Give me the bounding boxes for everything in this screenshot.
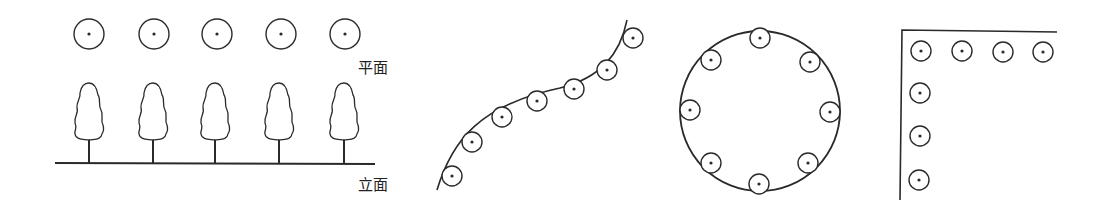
plan-view-label: 平面 <box>358 56 388 77</box>
tree-plan-symbol-icon <box>623 28 643 48</box>
tree-plan-symbol-icon <box>492 107 512 127</box>
tree-plan-symbol-icon <box>462 132 482 152</box>
tree-plan-symbol-icon <box>798 153 818 173</box>
elevation-view-label: 立面 <box>358 173 388 194</box>
tree-plan-symbol-icon <box>527 91 547 111</box>
tree-plan-symbol-icon <box>909 170 929 190</box>
corner-planting-panel <box>900 30 1057 200</box>
tree-plan-symbol-icon <box>680 100 700 120</box>
tree-plan-symbol-icon <box>564 79 584 99</box>
tree-plan-symbol-icon <box>74 19 104 49</box>
tree-plan-symbol-icon <box>330 19 360 49</box>
tree-plan-symbol-icon <box>266 19 296 49</box>
tree-plan-symbol-icon <box>139 19 169 49</box>
curve-planting-panel <box>437 20 643 190</box>
tree-plan-symbol-icon <box>800 52 820 72</box>
tree-elevation-icon <box>330 83 359 163</box>
tree-plan-symbol-icon <box>202 19 232 49</box>
tree-plan-symbol-icon <box>750 28 770 48</box>
tree-plan-symbol-icon <box>442 166 462 186</box>
tree-plan-symbol-icon <box>1033 42 1053 62</box>
tree-plan-symbol-icon <box>597 60 617 80</box>
tree-plan-symbol-icon <box>993 42 1013 62</box>
tree-plan-symbol-icon <box>820 102 840 122</box>
tree-plan-symbol-icon <box>701 153 721 173</box>
ground-line <box>55 163 375 164</box>
ring-planting-panel <box>680 28 840 194</box>
row-planting-panel <box>55 19 375 164</box>
tree-elevation-icon <box>139 83 168 163</box>
tree-plan-symbol-icon <box>910 126 930 146</box>
tree-elevation-icon <box>75 83 104 163</box>
tree-plan-symbol-icon <box>749 174 769 194</box>
tree-plan-symbol-icon <box>911 41 931 61</box>
tree-plan-symbol-icon <box>952 41 972 61</box>
tree-plan-symbol-icon <box>910 83 930 103</box>
tree-elevation-icon <box>201 83 230 163</box>
tree-elevation-icon <box>265 83 294 163</box>
tree-plan-symbol-icon <box>701 50 721 70</box>
planting-diagram <box>0 0 1101 224</box>
